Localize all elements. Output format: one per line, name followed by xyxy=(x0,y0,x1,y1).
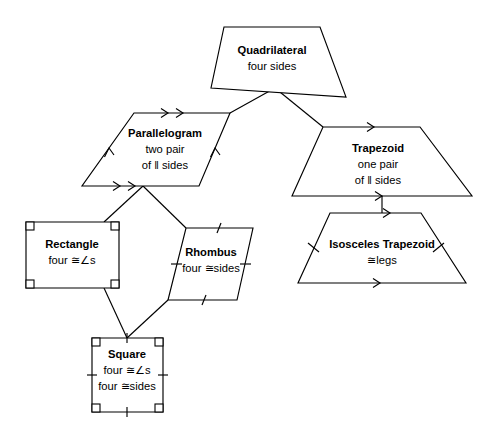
parallelogram-subtitle-1: two pair xyxy=(145,143,184,155)
quadrilateral-hierarchy-diagram: Quadrilateral four sides Pa xyxy=(0,0,495,437)
rhombus-title: Rhombus xyxy=(185,246,237,258)
trapezoid-title: Trapezoid xyxy=(352,142,404,154)
square-right-angle-icon-br xyxy=(155,404,163,412)
node-parallelogram[interactable]: Parallelogram two pair of ‖ sides xyxy=(82,109,230,191)
node-square[interactable]: Square four ≅∠s four ≅sides xyxy=(87,333,168,417)
square-right-angle-icon-tr xyxy=(155,338,163,346)
rectangle-subtitle-1: four ≅∠s xyxy=(49,254,96,266)
trapezoid-subtitle-1: one pair xyxy=(358,158,399,170)
square-subtitle-2: four ≅sides xyxy=(98,380,156,392)
quadrilateral-title: Quadrilateral xyxy=(237,44,306,56)
diagram-canvas: Quadrilateral four sides Pa xyxy=(0,0,495,437)
isosceles-trapezoid-title: Isosceles Trapezoid xyxy=(329,238,435,250)
node-rectangle[interactable]: Rectangle four ≅∠s xyxy=(26,222,119,288)
rectangle-title: Rectangle xyxy=(45,238,98,250)
square-right-angle-icon-tl xyxy=(92,338,100,346)
rectangle-right-angle-icon-tl xyxy=(26,222,34,230)
quadrilateral-subtitle-1: four sides xyxy=(248,60,297,72)
rectangle-right-angle-icon-bl xyxy=(26,280,34,288)
trapezoid-subtitle-2: of ‖ sides xyxy=(355,174,402,186)
rectangle-right-angle-icon-tr xyxy=(111,222,119,230)
square-right-angle-icon-bl xyxy=(92,404,100,412)
square-title: Square xyxy=(108,348,146,360)
connector-parallelogram-to-rectangle xyxy=(104,186,143,222)
connector-rhombus-to-square xyxy=(127,300,168,338)
parallelogram-subtitle-2: of ‖ sides xyxy=(142,159,189,171)
isosceles-trapezoid-subtitle-1: ≅legs xyxy=(367,254,397,266)
connector-rectangle-to-square xyxy=(104,288,127,338)
rhombus-subtitle-1: four ≅sides xyxy=(182,262,240,274)
node-rhombus[interactable]: Rhombus four ≅sides xyxy=(168,223,253,305)
connector-parallelogram-to-rhombus xyxy=(143,186,186,228)
node-trapezoid[interactable]: Trapezoid one pair of ‖ sides xyxy=(292,123,472,201)
rectangle-right-angle-icon-br xyxy=(111,280,119,288)
node-quadrilateral[interactable]: Quadrilateral four sides xyxy=(211,27,346,97)
parallelogram-title: Parallelogram xyxy=(128,127,202,139)
square-subtitle-1: four ≅∠s xyxy=(104,364,151,376)
node-isosceles-trapezoid[interactable]: Isosceles Trapezoid ≅legs xyxy=(298,209,466,288)
